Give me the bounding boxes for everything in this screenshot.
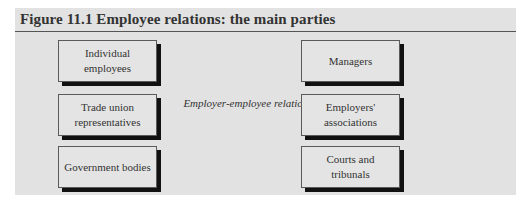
box-trade-union-representatives: Trade union representatives: [58, 94, 157, 136]
figure-panel: Figure 11.1 Employee relations: the main…: [15, 8, 516, 195]
box-label: Trade union representatives: [63, 100, 152, 130]
box-label: Government bodies: [64, 160, 150, 175]
box-courts-and-tribunals: Courts and tribunals: [301, 146, 400, 188]
figure-title: Figure 11.1 Employee relations: the main…: [20, 11, 335, 28]
box-label: Courts and tribunals: [306, 152, 395, 182]
center-label-text: Employer-employee relations: [183, 97, 312, 109]
box-label: Individual employees: [63, 46, 152, 76]
box-label: Employers' associations: [306, 100, 395, 130]
box-government-bodies: Government bodies: [58, 146, 157, 188]
center-label: Employer-employee relations: [183, 96, 313, 111]
box-label: Managers: [329, 54, 372, 69]
box-managers: Managers: [301, 40, 400, 82]
box-employers-associations: Employers' associations: [301, 94, 400, 136]
box-individual-employees: Individual employees: [58, 40, 157, 82]
figure-title-bar: Figure 11.1 Employee relations: the main…: [15, 8, 516, 32]
